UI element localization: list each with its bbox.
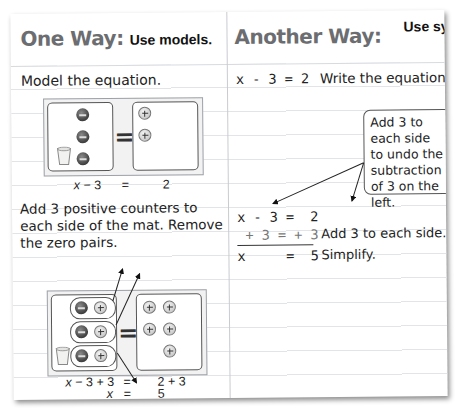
one-way-column: One Way:Use models. Model the equation. … <box>10 12 229 400</box>
remove-zero-pair-arrows <box>10 12 229 400</box>
mat2-caption2-left: x <box>107 387 113 400</box>
callout-arrows <box>227 10 447 398</box>
another-way-column: Another Way:Use symbols. x - 3 = 2 Write… <box>227 10 447 398</box>
mat2-caption2-equals: = <box>124 387 131 400</box>
note-simplify: Simplify. <box>321 247 375 263</box>
worksheet-page: One Way:Use models. Model the equation. … <box>10 10 447 400</box>
equation-line-3: x = 5 <box>237 247 318 264</box>
equation-line-2: + 3 = + 3 <box>237 226 318 243</box>
note-add-three: Add 3 to each side. <box>321 225 446 242</box>
equation-line-1: x - 3 = 2 <box>237 208 318 225</box>
mat2-caption2-right: 5 <box>158 387 165 400</box>
